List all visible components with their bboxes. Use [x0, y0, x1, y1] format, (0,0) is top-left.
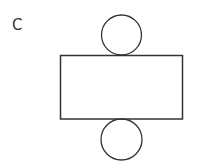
- lateral-surface-rectangle: [61, 56, 183, 120]
- cylinder-net-diagram: [0, 0, 201, 168]
- bottom-circle-face: [101, 119, 142, 160]
- top-circle-face: [102, 15, 142, 55]
